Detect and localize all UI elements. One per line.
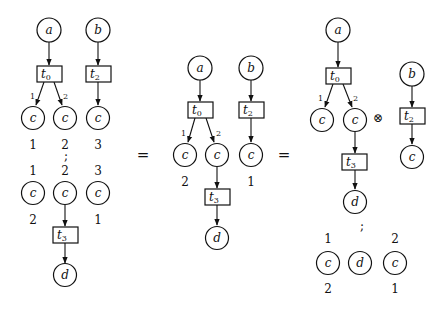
port-label: 2 [324, 282, 332, 296]
arc-label: 1 [181, 129, 186, 138]
svg-text:c: c [409, 150, 416, 164]
svg-text:b: b [247, 61, 255, 75]
svg-text:c: c [30, 186, 37, 200]
middle-net: 1 2 a b t0 t2 c c c 2 1 t3 d [174, 56, 265, 250]
svg-text:c: c [248, 148, 255, 162]
svg-text:c: c [62, 111, 69, 125]
svg-text:d: d [61, 268, 69, 282]
svg-text:d: d [213, 231, 221, 245]
equals-sign: = [137, 146, 150, 164]
svg-text:c: c [95, 111, 102, 125]
svg-text:c: c [325, 256, 332, 270]
equals-sign: = [278, 146, 291, 164]
svg-text:c: c [62, 186, 69, 200]
port-label: 2 [181, 175, 189, 189]
svg-text:d: d [351, 195, 359, 209]
port-label: 2 [29, 213, 37, 227]
tensor-operator: ⊗ [373, 111, 383, 125]
place-label: b [94, 23, 102, 37]
petri-net-equation: 1 2 a b t0 t2 c c c 1 2 3 ; 1 2 3 c c c … [0, 0, 446, 311]
right-permutation-net: 1 2 c d c 2 1 [317, 232, 407, 296]
port-label: 2 [391, 232, 399, 246]
left-top-net: 1 2 a b t0 t2 c c c 1 2 3 [22, 18, 112, 152]
svg-text:b: b [408, 67, 416, 81]
port-label: 1 [94, 213, 102, 227]
svg-text:a: a [196, 61, 203, 75]
svg-text:c: c [352, 113, 359, 127]
place-label: a [45, 23, 52, 37]
port-label: 1 [324, 232, 332, 246]
svg-text:c: c [182, 148, 189, 162]
port-label: 1 [29, 164, 37, 178]
port-label: 3 [94, 164, 102, 178]
svg-text:a: a [334, 23, 341, 37]
port-label: 2 [61, 164, 69, 178]
svg-text:c: c [319, 113, 326, 127]
left-bottom-net: 1 2 3 c c c 2 1 t3 d [22, 164, 110, 287]
svg-text:c: c [392, 256, 399, 270]
right-left-net: 1 2 a t0 c c t3 d [311, 18, 368, 214]
svg-text:d: d [356, 256, 364, 270]
svg-text:c: c [30, 111, 37, 125]
sequential-composition-operator: ; [64, 149, 68, 163]
arc-label: 1 [318, 94, 323, 103]
arc-label: 2 [63, 92, 68, 101]
svg-text:c: c [95, 186, 102, 200]
sequential-composition-operator: ; [360, 219, 364, 233]
right-right-net: b t2 c [400, 62, 425, 169]
arc-label: 2 [353, 94, 358, 103]
port-label: 1 [391, 282, 399, 296]
arc-label: 2 [216, 129, 221, 138]
port-label: 1 [247, 175, 255, 189]
arc-label: 1 [30, 92, 35, 101]
svg-text:c: c [214, 148, 221, 162]
port-label: 3 [94, 138, 102, 152]
port-label: 1 [29, 138, 37, 152]
